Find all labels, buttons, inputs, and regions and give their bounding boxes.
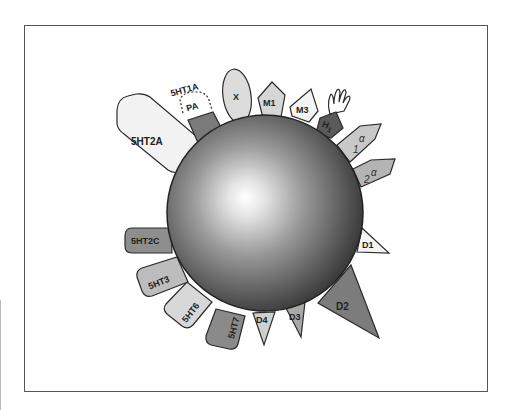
label-PA: PA	[185, 100, 200, 113]
receptor-H1: H1	[316, 89, 350, 138]
receptor-M1: M1	[258, 82, 285, 118]
label-D3: D3	[289, 312, 301, 322]
label-5HT1A: 5HT1A	[169, 81, 200, 98]
label-D4: D4	[256, 315, 268, 325]
receptor-5HT2C: 5HT2C	[125, 228, 172, 253]
receptor-alpha2: α 2	[353, 159, 395, 187]
label-5HT2A: 5HT2A	[131, 136, 163, 147]
receptor-D4: D4	[253, 312, 275, 345]
label-X: X	[233, 92, 239, 102]
receptor-5HT7: 5HT7	[206, 309, 245, 349]
drug-sphere	[167, 115, 363, 311]
label-M1: M1	[263, 98, 276, 108]
label-5HT2C: 5HT2C	[131, 236, 160, 246]
label-alpha1: 1	[353, 144, 359, 155]
label-D1: D1	[362, 240, 374, 250]
hand-icon	[329, 89, 351, 114]
label-alpha2: 2	[363, 174, 370, 185]
label-M3: M3	[296, 105, 309, 115]
receptor-M3: M3	[290, 89, 318, 122]
receptor-diagram: 5HT2A 5HT1A PA X M1 M3 H1 α 1 α 2	[0, 0, 516, 410]
label-D2: D2	[336, 301, 349, 312]
alpha1-glyph: α	[359, 133, 365, 144]
alpha2-glyph: α	[371, 167, 377, 178]
